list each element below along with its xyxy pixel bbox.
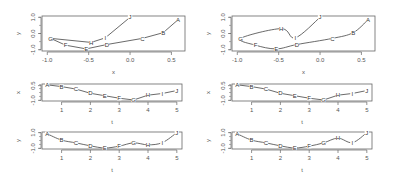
point-label: C <box>264 86 269 92</box>
point-label: J <box>175 88 178 94</box>
point-label: B <box>60 137 64 143</box>
y-tick-label: -1.0 <box>220 44 226 55</box>
x-tick-label: 1 <box>60 107 64 113</box>
point-label: A <box>235 82 239 88</box>
y-axis-label: x <box>205 91 211 94</box>
point-label: H <box>89 40 93 46</box>
point-label: C <box>74 140 79 146</box>
point-label: F <box>64 42 68 48</box>
point-label: D <box>88 90 93 96</box>
data-line <box>47 85 177 100</box>
x-tick-label: -1.0 <box>232 57 243 63</box>
x-tick-label: 3 <box>118 107 122 113</box>
y-tick-label: -1.0 <box>220 143 226 154</box>
y-axis-label: y <box>205 139 211 142</box>
x-tick-label: 3 <box>308 155 312 161</box>
x-axis-label: t <box>111 167 113 173</box>
point-label: F <box>307 95 311 101</box>
x-tick-label: 3 <box>118 155 122 161</box>
point-label: B <box>250 84 254 90</box>
point-label: J <box>175 130 178 136</box>
x-tick-label: -0.5 <box>84 57 95 63</box>
x-tick-label: 5 <box>175 155 179 161</box>
x-tick-label: 1 <box>60 155 64 161</box>
point-label: C <box>74 86 79 92</box>
x-tick-label: 2 <box>279 155 283 161</box>
x-tick-label: 0.5 <box>357 57 366 63</box>
point-label: H <box>146 142 150 148</box>
point-label: D <box>88 143 93 149</box>
point-label: D <box>278 143 283 149</box>
y-tick-label: 1.0 <box>220 128 226 137</box>
y-tick-label: -1.0 <box>30 44 36 55</box>
y-tick-label: 1.0 <box>30 128 36 137</box>
point-label: A <box>45 82 49 88</box>
x-tick-label: 2 <box>89 155 93 161</box>
x-axis-label: x <box>112 69 115 75</box>
point-label: J <box>365 88 368 94</box>
point-label: F <box>254 42 258 48</box>
point-label: E <box>274 46 278 52</box>
point-label: H <box>146 92 150 98</box>
point-label: G <box>48 36 53 42</box>
point-label: E <box>84 46 88 52</box>
point-label: E <box>103 145 107 151</box>
point-label: B <box>250 137 254 143</box>
y-tick-label: -1.0 <box>30 95 36 106</box>
point-label: J <box>365 130 368 136</box>
x-tick-label: 4 <box>146 107 150 113</box>
point-label: C <box>330 36 335 42</box>
y-tick-label: 1.0 <box>220 12 226 21</box>
point-label: D <box>278 90 283 96</box>
point-label: B <box>161 30 165 36</box>
panel-middle-left: 12345-1.00.5txABCDEFGHIJ <box>15 81 182 125</box>
point-label: A <box>176 17 180 23</box>
point-label: B <box>351 30 355 36</box>
panel-top-right: -1.0-0.50.00.5-1.00.01.0xyABCDEFGHIJ <box>205 12 375 75</box>
x-tick-label: 4 <box>336 155 340 161</box>
point-label: H <box>336 135 340 141</box>
point-label: G <box>238 36 243 42</box>
data-line <box>240 17 368 49</box>
x-tick-label: 1 <box>250 107 254 113</box>
panel-middle-right: 12345-1.00.5txABCDEFGHIJ <box>205 81 372 125</box>
panel-bottom-right: 12345-1.01.0tyABCDEFGHIJ <box>205 128 372 173</box>
point-label: H <box>279 26 283 32</box>
y-axis-label: y <box>15 139 21 142</box>
point-label: G <box>321 140 326 146</box>
x-tick-label: -0.5 <box>274 57 285 63</box>
x-tick-label: 0.5 <box>167 57 176 63</box>
x-tick-label: 5 <box>175 107 179 113</box>
point-label: G <box>321 97 326 103</box>
point-label: G <box>131 97 136 103</box>
x-tick-label: 5 <box>365 155 369 161</box>
data-line <box>51 17 178 49</box>
data-line <box>47 133 177 148</box>
point-label: E <box>293 145 297 151</box>
point-label: F <box>307 143 311 149</box>
figure: -1.0-0.50.00.5-1.00.01.0xyABCDEFGHIJ-1.0… <box>0 0 393 175</box>
data-line <box>237 133 367 148</box>
point-label: B <box>60 84 64 90</box>
panel-top-left: -1.0-0.50.00.5-1.00.01.0xyABCDEFGHIJ <box>15 12 185 75</box>
x-axis-label: t <box>301 167 303 173</box>
x-tick-label: 0.0 <box>316 57 325 63</box>
y-tick-label: 0.0 <box>220 29 226 38</box>
point-label: H <box>336 92 340 98</box>
point-label: A <box>366 17 370 23</box>
y-tick-label: 0.5 <box>30 81 36 90</box>
point-label: E <box>103 93 107 99</box>
point-label: D <box>295 42 300 48</box>
x-tick-label: 2 <box>279 107 283 113</box>
x-tick-label: 4 <box>146 155 150 161</box>
chart-canvas: -1.0-0.50.00.5-1.00.01.0xyABCDEFGHIJ-1.0… <box>0 0 393 175</box>
x-tick-label: 2 <box>89 107 93 113</box>
x-axis-label: x <box>302 69 305 75</box>
point-label: C <box>264 140 269 146</box>
y-tick-label: 0.5 <box>220 81 226 90</box>
y-axis-label: x <box>15 91 21 94</box>
x-tick-label: 5 <box>365 107 369 113</box>
point-label: E <box>293 93 297 99</box>
point-label: A <box>235 131 239 137</box>
point-label: F <box>117 143 121 149</box>
